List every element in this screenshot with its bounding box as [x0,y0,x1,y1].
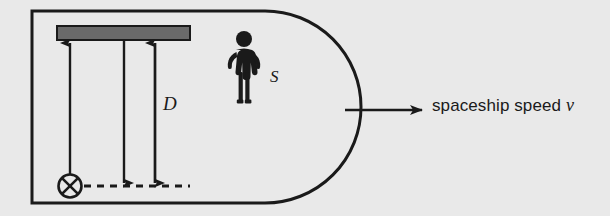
circled-x-icon [59,175,82,198]
observer-label: S [270,68,279,85]
speed-caption-text: spaceship speed [432,96,561,115]
figure-canvas: D S spaceship speed v [0,0,610,216]
distance-label: D [163,94,177,113]
mirror-bar-icon [57,26,190,40]
speed-caption: spaceship speed v [432,96,574,114]
speed-symbol: v [566,95,574,115]
standing-person-icon [228,31,260,104]
